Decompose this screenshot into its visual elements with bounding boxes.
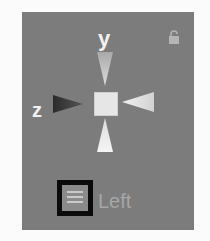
view-menu-button[interactable] (57, 180, 93, 216)
lock-icon[interactable] (168, 30, 180, 44)
y-axis-cone-icon[interactable] (97, 52, 113, 90)
neg-y-axis-cone-icon[interactable] (97, 118, 113, 156)
x-axis-cone-icon[interactable] (122, 92, 154, 116)
y-axis-label[interactable]: y (98, 28, 110, 50)
scene-gizmo-panel: y z (22, 12, 194, 230)
z-axis-cone-icon[interactable] (53, 95, 83, 117)
z-axis-label[interactable]: z (32, 100, 42, 120)
center-cube-icon[interactable] (94, 92, 118, 116)
view-label[interactable]: Left (98, 190, 131, 213)
